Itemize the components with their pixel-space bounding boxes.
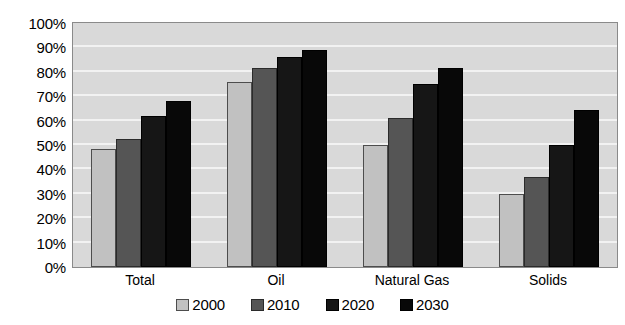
y-axis-tick-label: 100% (0, 16, 66, 31)
legend-item[interactable]: 2030 (400, 297, 449, 312)
legend-label: 2020 (342, 297, 375, 312)
bar[interactable] (166, 101, 191, 267)
legend-label: 2010 (267, 297, 300, 312)
x-axis-tick-label: Oil (267, 272, 284, 288)
x-axis: TotalOilNatural GasSolids (72, 272, 618, 292)
legend-item[interactable]: 2010 (251, 297, 300, 312)
legend-label: 2000 (192, 297, 225, 312)
legend-item[interactable]: 2000 (176, 297, 225, 312)
chart-legend: 2000201020202030 (0, 297, 625, 312)
bars-layer (73, 23, 617, 267)
x-axis-tick-label: Total (125, 272, 155, 288)
bar[interactable] (302, 50, 327, 267)
y-axis-tick-label: 10% (0, 235, 66, 250)
bar[interactable] (438, 68, 463, 267)
y-axis-tick-label: 30% (0, 186, 66, 201)
y-axis-tick-label: 80% (0, 64, 66, 79)
legend-swatch-icon (251, 299, 264, 311)
bar[interactable] (363, 145, 388, 267)
bar[interactable] (227, 82, 252, 267)
bar[interactable] (91, 149, 116, 267)
legend-item[interactable]: 2020 (326, 297, 375, 312)
bar[interactable] (277, 57, 302, 267)
legend-swatch-icon (176, 299, 189, 311)
plot-area (72, 22, 618, 268)
y-axis: 0%10%20%30%40%50%60%70%80%90%100% (0, 23, 66, 267)
bar[interactable] (141, 116, 166, 267)
legend-swatch-icon (400, 299, 413, 311)
y-axis-tick-label: 90% (0, 40, 66, 55)
bar-chart: 0%10%20%30%40%50%60%70%80%90%100% TotalO… (0, 0, 625, 325)
bar[interactable] (524, 177, 549, 267)
y-axis-tick-label: 50% (0, 138, 66, 153)
bar[interactable] (252, 68, 277, 267)
bar[interactable] (413, 84, 438, 267)
y-axis-tick-label: 70% (0, 89, 66, 104)
legend-label: 2030 (416, 297, 449, 312)
bar[interactable] (388, 118, 413, 267)
y-axis-tick-label: 0% (0, 260, 66, 275)
y-axis-tick-label: 60% (0, 113, 66, 128)
bar-group (209, 23, 345, 267)
legend-swatch-icon (326, 299, 339, 311)
x-axis-tick-label: Natural Gas (375, 272, 450, 288)
bar[interactable] (499, 194, 524, 267)
bar[interactable] (116, 139, 141, 267)
bar[interactable] (549, 145, 574, 267)
bar[interactable] (574, 110, 599, 267)
bar-group (345, 23, 481, 267)
x-axis-tick-label: Solids (529, 272, 567, 288)
y-axis-tick-label: 40% (0, 162, 66, 177)
y-axis-tick-label: 20% (0, 211, 66, 226)
bar-group (73, 23, 209, 267)
bar-group (481, 23, 617, 267)
